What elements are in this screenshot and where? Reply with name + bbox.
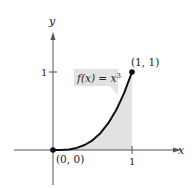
chart: y x 1 1 (0, 0) (1, 1) f(x) = x3 — [0, 0, 194, 188]
y-axis-label: y — [48, 15, 56, 28]
x-axis-label: x — [178, 144, 185, 157]
origin-point-label: (0, 0) — [56, 153, 84, 165]
function-label-base: f(x) = x — [76, 72, 116, 84]
function-label: f(x) = x3 — [76, 72, 121, 84]
point-origin — [50, 147, 56, 153]
function-label-exponent: 3 — [116, 72, 120, 80]
point-end — [129, 69, 135, 75]
x-tick-label: 1 — [129, 156, 135, 167]
y-axis-arrow-icon — [51, 32, 56, 40]
label-pointer — [110, 86, 118, 95]
end-point-label: (1, 1) — [131, 56, 159, 68]
y-tick-label: 1 — [41, 67, 47, 78]
